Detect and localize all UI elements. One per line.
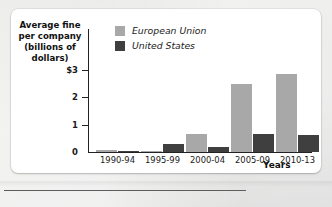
y-tick-mark-2: [82, 97, 89, 98]
bar-eu-2005-09: [231, 84, 252, 152]
bar-eu-1995-99: [141, 151, 162, 153]
y-axis-title-line-3: (billions of: [17, 42, 83, 53]
legend-item-european-union: European Union: [115, 26, 206, 36]
legend-swatch-european-union: [115, 26, 125, 36]
y-axis-title: Average fine per company (billions of do…: [17, 20, 83, 64]
bar-eu-1990-94: [96, 150, 117, 152]
y-axis-title-line-4: dollars): [17, 53, 83, 64]
x-axis-title: Years: [263, 160, 291, 170]
y-tick-label-0: 0: [32, 148, 78, 157]
y-tick-mark-3: [82, 70, 89, 71]
y-axis-line: [88, 29, 89, 153]
bar-us-2000-04: [208, 147, 229, 152]
y-tick-label-1: 1: [32, 121, 78, 130]
bar-us-1995-99: [163, 144, 184, 152]
chart-card: Average fine per company (billions of do…: [11, 9, 321, 173]
bar-us-2005-09: [253, 134, 274, 152]
y-tick-label-2: 2: [32, 93, 78, 102]
legend-item-united-states: United States: [115, 41, 206, 51]
bar-chart-plot: Average fine per company (billions of do…: [11, 9, 321, 173]
y-tick-mark-1: [82, 125, 89, 126]
legend-label-united-states: United States: [132, 41, 195, 50]
y-tick-label-3: $3: [32, 66, 78, 75]
y-axis-title-line-1: Average fine: [17, 20, 83, 31]
bottom-divider-rule: [4, 190, 246, 191]
legend-label-european-union: European Union: [132, 26, 206, 35]
chart-legend: European Union United States: [115, 26, 206, 56]
page-shadow-band: [0, 181, 332, 187]
bar-eu-2010-13: [276, 74, 297, 152]
y-axis-title-line-2: per company: [17, 31, 83, 42]
x-axis-line: [88, 152, 312, 153]
bar-us-1990-94: [118, 151, 139, 152]
bar-eu-2000-04: [186, 134, 207, 152]
bar-us-2010-13: [298, 135, 319, 152]
legend-swatch-united-states: [115, 41, 125, 51]
